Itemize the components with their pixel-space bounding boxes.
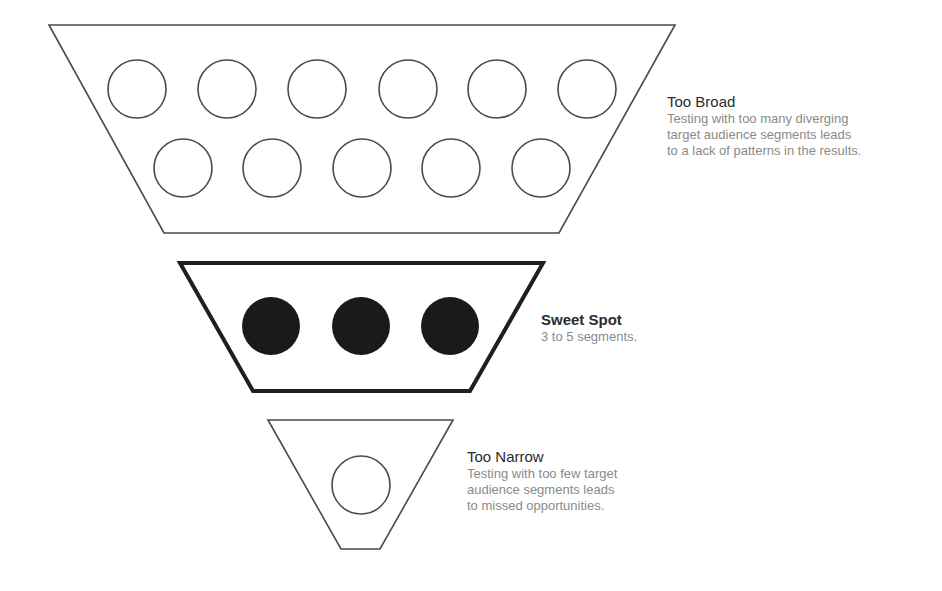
- label-too-broad: Too Broad Testing with too many divergin…: [667, 92, 861, 159]
- segment-filled-circle-icon: [242, 297, 300, 355]
- tier-title-too-narrow: Too Narrow: [467, 447, 617, 466]
- funnel-tier-too-broad: [49, 25, 675, 233]
- segment-circle-icon: [108, 60, 166, 118]
- segment-filled-circle-icon: [332, 297, 390, 355]
- tier-desc-line: Testing with too many diverging: [667, 111, 861, 127]
- segment-circle-icon: [468, 60, 526, 118]
- segment-circle-icon: [154, 139, 212, 197]
- segment-circle-icon: [422, 139, 480, 197]
- tier-desc-line: to missed opportunities.: [467, 498, 617, 514]
- segment-circle-icon: [512, 139, 570, 197]
- label-too-narrow: Too Narrow Testing with too few target a…: [467, 447, 617, 514]
- trapezoid-too-broad: [49, 25, 675, 233]
- segment-circle-icon: [333, 139, 391, 197]
- tier-desc-line: 3 to 5 segments.: [541, 329, 637, 345]
- tier-desc-line: to a lack of patterns in the results.: [667, 143, 861, 159]
- tier-title-sweet-spot: Sweet Spot: [541, 310, 637, 329]
- trapezoid-too-narrow: [268, 420, 453, 549]
- segment-circle-icon: [288, 60, 346, 118]
- segment-circle-icon: [558, 60, 616, 118]
- tier-desc-line: target audience segments leads: [667, 127, 861, 143]
- segment-circle-icon: [379, 60, 437, 118]
- label-sweet-spot: Sweet Spot 3 to 5 segments.: [541, 310, 637, 345]
- segment-circle-icon: [243, 139, 301, 197]
- segment-circle-icon: [332, 456, 390, 514]
- segment-circle-icon: [198, 60, 256, 118]
- tier-desc-line: audience segments leads: [467, 482, 617, 498]
- segment-filled-circle-icon: [421, 297, 479, 355]
- tier-title-too-broad: Too Broad: [667, 92, 861, 111]
- tier-desc-line: Testing with too few target: [467, 466, 617, 482]
- funnel-tier-sweet-spot: [180, 263, 543, 391]
- funnel-tier-too-narrow: [268, 420, 453, 549]
